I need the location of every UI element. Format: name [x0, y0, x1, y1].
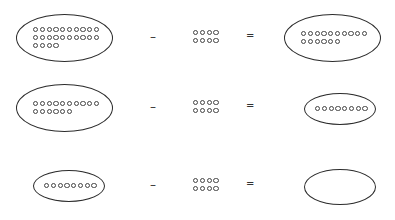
counter-dot	[74, 35, 79, 40]
counter-dot	[53, 43, 58, 48]
counter-dot	[349, 106, 354, 111]
counter-dot	[315, 39, 320, 44]
counter-dot	[308, 39, 313, 44]
counter-dot	[80, 27, 85, 32]
counter-dot	[335, 31, 340, 36]
counter-dot	[94, 35, 99, 40]
minuend-set-1-dots	[33, 27, 112, 49]
counter-dot	[301, 39, 306, 44]
counter-dot	[64, 183, 69, 188]
counter-dot	[94, 27, 99, 32]
counter-dot	[207, 186, 212, 191]
counter-dot	[53, 27, 58, 32]
counter-dot	[213, 108, 218, 113]
counter-dot	[207, 178, 212, 183]
counter-dot	[33, 27, 38, 32]
counter-dot	[53, 101, 58, 106]
counter-dot	[53, 109, 58, 114]
subtrahend-dots-2	[193, 100, 219, 114]
equals-sign: =	[246, 30, 254, 41]
counter-dot	[71, 183, 76, 188]
counter-dot	[213, 186, 218, 191]
counter-dot	[308, 31, 313, 36]
counter-dot	[335, 106, 340, 111]
counter-dot	[342, 106, 347, 111]
counter-dot	[60, 35, 65, 40]
counter-dot	[362, 31, 367, 36]
counter-dot	[60, 109, 65, 114]
counter-dot	[329, 106, 334, 111]
counter-dot	[40, 43, 45, 48]
counter-dot	[47, 43, 52, 48]
counter-dot	[207, 108, 212, 113]
counter-dot	[348, 31, 353, 36]
counter-dot	[193, 186, 198, 191]
counter-dot	[91, 183, 96, 188]
counter-dot	[193, 100, 198, 105]
minus-sign: –	[150, 178, 156, 192]
counter-dot	[193, 108, 198, 113]
counter-dot	[328, 39, 333, 44]
minuend-set-3-dots	[44, 183, 104, 189]
counter-dot	[67, 35, 72, 40]
minus-sign: –	[150, 100, 156, 114]
counter-dot	[58, 183, 63, 188]
counter-dot	[213, 178, 218, 183]
counter-dot	[200, 38, 205, 43]
counter-dot	[53, 35, 58, 40]
subtrahend-dots-3	[193, 178, 219, 192]
counter-dot	[47, 27, 52, 32]
counter-dot	[40, 27, 45, 32]
counter-dot	[321, 31, 326, 36]
equals-sign: =	[246, 178, 254, 189]
minuend-set-3	[33, 170, 105, 202]
counter-dot	[47, 101, 52, 106]
counter-dot	[94, 101, 99, 106]
counter-dot	[51, 183, 56, 188]
counter-dot	[67, 109, 72, 114]
counter-dot	[315, 31, 320, 36]
minuend-set-2	[16, 84, 113, 132]
counter-dot	[40, 101, 45, 106]
counter-dot	[33, 109, 38, 114]
counter-dot	[321, 39, 326, 44]
minus-sign: –	[150, 30, 156, 44]
counter-dot	[40, 35, 45, 40]
counter-dot	[356, 106, 361, 111]
counter-dot	[47, 109, 52, 114]
counter-dot	[200, 30, 205, 35]
counter-dot	[355, 31, 360, 36]
counter-dot	[207, 30, 212, 35]
counter-dot	[74, 101, 79, 106]
counter-dot	[47, 35, 52, 40]
counter-dot	[80, 35, 85, 40]
counter-dot	[67, 27, 72, 32]
counter-dot	[315, 106, 320, 111]
counter-dot	[67, 101, 72, 106]
counter-dot	[362, 106, 367, 111]
counter-dot	[87, 27, 92, 32]
counter-dot	[44, 183, 49, 188]
counter-dot	[78, 183, 83, 188]
counter-dot	[33, 35, 38, 40]
counter-dot	[213, 30, 218, 35]
difference-set-1	[284, 14, 381, 62]
counter-dot	[80, 101, 85, 106]
minuend-set-1	[16, 14, 113, 62]
counter-dot	[200, 100, 205, 105]
counter-dot	[60, 101, 65, 106]
counter-dot	[342, 31, 347, 36]
counter-dot	[193, 30, 198, 35]
counter-dot	[200, 108, 205, 113]
counter-dot	[60, 27, 65, 32]
equals-sign: =	[246, 100, 254, 111]
counter-dot	[213, 100, 218, 105]
counter-dot	[33, 101, 38, 106]
counter-dot	[87, 101, 92, 106]
difference-set-1-dots	[301, 31, 380, 45]
counter-dot	[213, 38, 218, 43]
counter-dot	[207, 38, 212, 43]
difference-set-3	[304, 169, 376, 205]
counter-dot	[193, 178, 198, 183]
subtrahend-dots-1	[193, 30, 219, 44]
